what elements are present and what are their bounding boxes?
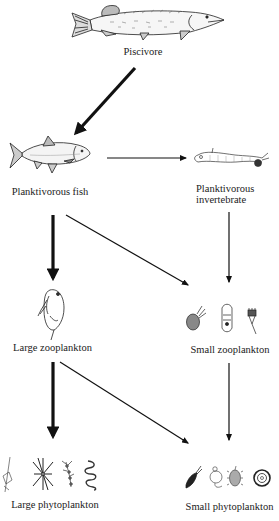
arrow-fish-to-small-zooplankton: [66, 215, 188, 285]
rotifer-keratella-icon: [248, 308, 256, 334]
asterionella-star-icon: [33, 458, 53, 490]
daphnia-icon: [38, 290, 64, 340]
label-piscivore: Piscivore: [113, 46, 173, 57]
arrows: [53, 68, 229, 443]
chlamydomonas-icon: [210, 467, 222, 487]
colonial-algae-icon: [3, 457, 12, 492]
pike-icon: [72, 5, 224, 40]
label-small-phytoplankton: Small phytoplankton: [180, 501, 279, 512]
spiral-cyanobacteria-icon: [85, 461, 96, 490]
rotifer-icon: [222, 304, 232, 332]
label-large-phytoplankton: Large phytoplankton: [5, 499, 105, 510]
ciliated-cell-icon: [227, 466, 243, 486]
label-planktivorous-invertebrate: Planktivorous invertebrate: [196, 183, 266, 205]
arrow-piscivore-to-fish: [76, 68, 135, 133]
label-planktivorous-invertebrate-line2: invertebrate: [196, 194, 266, 205]
chaoborus-larva-icon: [195, 148, 269, 167]
label-small-zooplankton: Small zooplankton: [185, 344, 275, 355]
roach-fish-icon: [10, 136, 90, 173]
filamentous-algae-icon: [62, 461, 74, 487]
arrow-large-zoo-to-small-phyto: [60, 362, 188, 443]
flagellate-icon: [186, 466, 202, 488]
label-planktivorous-fish: Planktivorous fish: [5, 186, 95, 197]
centric-diatom-icon: [254, 470, 270, 486]
label-large-zooplankton: Large zooplankton: [5, 342, 100, 353]
diagram-graphics: [0, 0, 279, 521]
food-web-diagram: Piscivore Planktivorous fish Planktivoro…: [0, 0, 279, 521]
small-cladoceran-icon: [187, 306, 207, 330]
label-planktivorous-invertebrate-line1: Planktivorous: [196, 183, 266, 194]
